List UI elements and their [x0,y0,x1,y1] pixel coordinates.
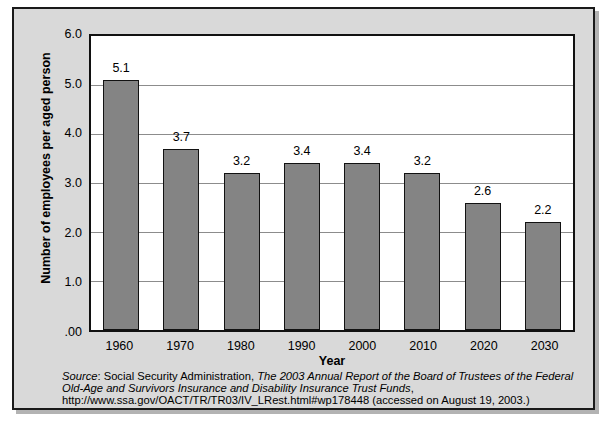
source-line-pre: : Social Security Administration, [97,370,257,382]
y-axis-tick-labels: 6.0 5.0 4.0 3.0 2.0 1.0 .00 [42,34,86,332]
x-tick-label: 2020 [454,332,515,353]
y-tick-label-5: 5.0 [65,77,82,91]
x-tick-label: 2000 [332,332,393,353]
bar-slot: 2.6 [453,36,513,330]
y-tick-label-2: 2.0 [65,226,82,240]
bar-series: 5.13.73.23.43.43.22.62.2 [91,36,573,330]
bar-slot: 3.2 [392,36,452,330]
bar-slot: 3.2 [212,36,272,330]
bar-slot: 3.4 [332,36,392,330]
source-note: Source: Social Security Administration, … [62,370,582,407]
bar-value-label: 3.4 [353,145,370,158]
bar-value-label: 5.1 [112,62,129,75]
x-tick-label: 1960 [89,332,150,353]
bar[interactable]: 2.2 [525,222,561,330]
x-tick-label: 1970 [150,332,211,353]
source-label: Source [62,370,97,382]
bar[interactable]: 3.4 [344,163,380,330]
x-axis-tick-labels: 19601970198019902000201020202030 [89,332,575,353]
bar-slot: 3.7 [151,36,211,330]
bar-value-label: 3.7 [173,131,190,144]
bar-slot: 5.1 [91,36,151,330]
bar[interactable]: 3.2 [404,173,440,330]
bar-slot: 2.2 [513,36,573,330]
y-tick-label-3: 3.0 [65,176,82,190]
x-axis-title: Year [89,354,575,368]
y-tick-label-1: 1.0 [65,275,82,289]
y-tick-label-4: 4.0 [65,126,82,140]
bar[interactable]: 2.6 [465,203,501,330]
x-tick-label: 2010 [393,332,454,353]
chart-figure: Number of employees per aged person 6.0 … [12,7,595,410]
bar[interactable]: 5.1 [103,80,139,330]
bar-value-label: 3.2 [233,155,250,168]
bar-value-label: 2.6 [474,185,491,198]
bar-value-label: 2.2 [534,204,551,217]
bar[interactable]: 3.7 [163,149,199,330]
x-tick-label: 1980 [211,332,272,353]
x-tick-label: 1990 [271,332,332,353]
bar[interactable]: 3.2 [224,173,260,330]
bar-value-label: 3.2 [414,155,431,168]
y-tick-label-0: .00 [65,325,82,339]
bar-value-label: 3.4 [293,145,310,158]
bar[interactable]: 3.4 [284,163,320,330]
y-tick-label-6: 6.0 [65,27,82,41]
bar-slot: 3.4 [272,36,332,330]
x-tick-label: 2030 [514,332,575,353]
plot-area: 5.13.73.23.43.43.22.62.2 [89,34,575,332]
